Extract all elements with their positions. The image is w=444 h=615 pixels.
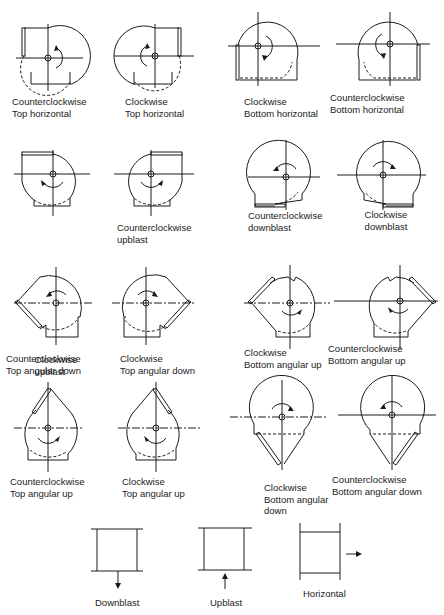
figure-label: Counterclockwise Top angular up — [10, 476, 84, 499]
figure-label: Counterclockwise Bottom angular down — [332, 474, 422, 497]
figure-label: Counterclockwise Top angular down — [6, 353, 81, 376]
figure-label: Counterclockwise Top horizontal — [12, 96, 86, 119]
figure-label: Counterclockwise Bottom horizontal — [330, 92, 404, 115]
upblast-icon — [192, 525, 272, 605]
figure-label: Clockwise downblast — [365, 209, 408, 232]
figure-cw-top-angular-down: Clockwise Top angular down — [110, 255, 220, 395]
fan-housing-icon — [334, 140, 444, 250]
fan-housing-icon — [222, 0, 332, 110]
fan-housing-icon — [334, 370, 444, 480]
figure-cw-top-angular-up: Clockwise Top angular up — [110, 380, 220, 520]
figure-label: Clockwise Top angular up — [122, 476, 185, 499]
figure-ccw-top-angular-up: Counterclockwise Top angular up — [0, 380, 110, 520]
figure-label: Clockwise Top angular down — [120, 353, 195, 376]
figure-cw-top-horizontal: Clockwise Top horizontal — [110, 0, 220, 130]
figure-ccw-bottom-horizontal: Counterclockwise Bottom horizontal — [334, 0, 444, 130]
figure-label: Downblast — [95, 597, 139, 609]
figure-label: Clockwise Bottom angular down — [264, 482, 328, 517]
downblast-icon — [85, 525, 165, 605]
figure-label: Clockwise Bottom angular up — [244, 347, 322, 370]
figure-label: Horizontal — [303, 588, 346, 600]
fan-housing-icon — [0, 140, 110, 250]
figure-ccw-bottom-angular-down: Counterclockwise Bottom angular down — [334, 370, 444, 520]
figure-ccw-top-angular-down: Counterclockwise Top angular down — [0, 255, 110, 395]
discharge-downblast: Downblast — [85, 525, 165, 615]
figure-label: Counterclockwise Bottom angular up — [328, 343, 406, 366]
fan-housing-icon — [0, 0, 110, 110]
figure-label: Clockwise Bottom horizontal — [244, 96, 318, 119]
figure-ccw-top-horizontal: Counterclockwise Top horizontal — [0, 0, 110, 130]
fan-housing-icon — [110, 380, 220, 490]
figure-cw-downblast: Clockwise downblast — [334, 140, 444, 270]
figure-ccw-downblast: Counterclockwise downblast — [222, 140, 332, 270]
fan-housing-icon — [110, 255, 220, 365]
fan-housing-icon — [222, 370, 332, 480]
fan-housing-icon — [0, 380, 110, 490]
figure-ccw-upblast: Counterclockwise upblast — [110, 140, 220, 270]
fan-housing-icon — [222, 140, 332, 250]
discharge-upblast: Upblast — [192, 525, 272, 615]
figure-label: Counterclockwise downblast — [248, 210, 322, 233]
discharge-horizontal: Horizontal — [298, 520, 388, 610]
figure-label: Clockwise Top horizontal — [125, 96, 184, 119]
figure-label: Counterclockwise upblast — [117, 222, 191, 245]
fan-housing-icon — [0, 255, 110, 365]
fan-housing-icon — [110, 0, 220, 110]
figure-cw-upblast: Clockwise upblast — [0, 140, 110, 270]
figure-cw-bottom-horizontal: Clockwise Bottom horizontal — [222, 0, 332, 130]
figure-label: Upblast — [210, 597, 242, 609]
figure-cw-bottom-angular-down: Clockwise Bottom angular down — [222, 370, 332, 520]
